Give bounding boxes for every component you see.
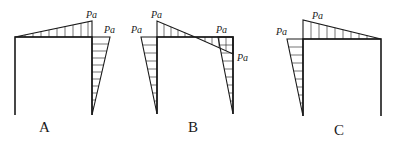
beam-moment-c xyxy=(303,20,381,39)
beam-moment-a xyxy=(15,21,92,37)
label-pa: Pa xyxy=(236,52,248,63)
column-moment-a xyxy=(92,37,110,115)
beam-moment-b-right xyxy=(195,37,233,54)
option-a-diagram: Pa Pa A xyxy=(15,9,115,135)
option-c-diagram: Pa Pa C xyxy=(275,10,381,138)
beam-moment-b-left xyxy=(157,21,195,37)
left-column-moment-c xyxy=(287,39,303,116)
label-pa: Pa xyxy=(85,9,97,20)
option-label-a: A xyxy=(39,119,50,135)
label-pa: Pa xyxy=(215,24,227,35)
label-pa: Pa xyxy=(311,10,323,21)
option-label-b: B xyxy=(188,119,198,135)
right-column-moment-b xyxy=(218,37,233,114)
label-pa: Pa xyxy=(130,24,142,35)
label-pa: Pa xyxy=(103,24,115,35)
option-b-diagram: Pa Pa Pa Pa B xyxy=(130,9,248,135)
frame-a xyxy=(15,37,92,115)
moment-diagram-figure: Pa Pa A xyxy=(0,0,394,145)
label-pa: Pa xyxy=(275,26,287,37)
frame-c xyxy=(303,39,381,116)
option-label-c: C xyxy=(334,122,344,138)
label-pa: Pa xyxy=(150,9,162,20)
left-column-moment-b xyxy=(141,37,157,114)
